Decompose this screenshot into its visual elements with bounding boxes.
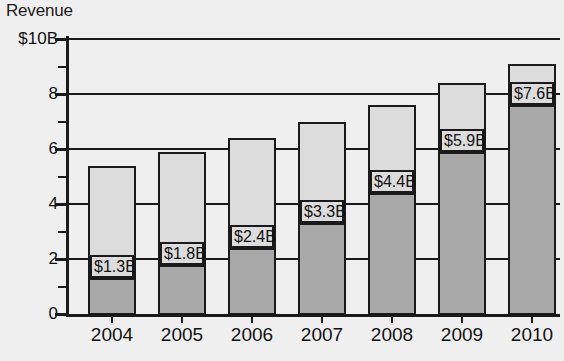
bar-value-label-2004: $1.3B (90, 255, 134, 278)
x-tick-2009 (461, 314, 463, 323)
bar-segment-lower-2007 (298, 223, 346, 315)
bar-value-label-2005: $1.8B (160, 242, 204, 265)
bar-segment-lower-2010 (508, 105, 556, 315)
x-axis-label-2010: 2010 (497, 324, 564, 346)
revenue-stacked-bar-chart: Revenue $10B86420$1.3B2004$1.8B2005$2.4B… (0, 0, 564, 361)
bar-value-label-2009: $5.9B (440, 129, 484, 152)
gridline-y-10 (66, 38, 560, 40)
y-axis-label-4: 4 (0, 194, 58, 214)
bar-segment-lower-2008 (368, 193, 416, 315)
x-tick-2008 (391, 314, 393, 323)
bar-value-label-2007: $3.3B (300, 200, 344, 223)
bar-segment-lower-2009 (438, 152, 486, 315)
bar-value-label-2010: $7.6B (510, 82, 554, 105)
y-minor-tick-5 (58, 176, 66, 178)
x-axis-label-2009: 2009 (427, 324, 497, 346)
x-tick-2004 (111, 314, 113, 323)
x-tick-2005 (181, 314, 183, 323)
x-tick-2007 (321, 314, 323, 323)
x-axis-label-2006: 2006 (217, 324, 287, 346)
chart-axis-title: Revenue (6, 1, 73, 21)
y-minor-tick-1 (58, 286, 66, 288)
x-axis-label-2008: 2008 (357, 324, 427, 346)
x-axis-label-2005: 2005 (147, 324, 217, 346)
y-axis-label-6: 6 (0, 139, 58, 159)
y-minor-tick-3 (58, 231, 66, 233)
y-axis-label-10: $10B (0, 29, 58, 49)
y-axis-label-0: 0 (0, 304, 58, 324)
x-tick-2006 (251, 314, 253, 323)
x-tick-2010 (531, 314, 533, 323)
y-axis-label-2: 2 (0, 249, 58, 269)
y-axis-label-8: 8 (0, 84, 58, 104)
bar-segment-lower-2005 (158, 265, 206, 316)
bar-value-label-2006: $2.4B (230, 225, 274, 248)
bar-segment-lower-2004 (88, 278, 136, 315)
bar-value-label-2008: $4.4B (370, 170, 414, 193)
bar-segment-lower-2006 (228, 248, 276, 315)
x-axis-label-2004: 2004 (77, 324, 147, 346)
y-minor-tick-9 (58, 66, 66, 68)
y-minor-tick-7 (58, 121, 66, 123)
x-axis-label-2007: 2007 (287, 324, 357, 346)
